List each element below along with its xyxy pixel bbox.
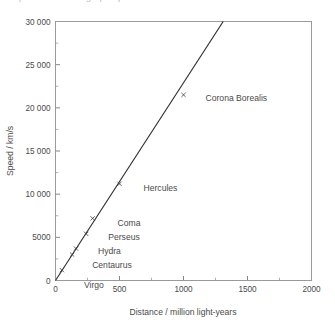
y-tick-label: 15 000: [25, 147, 50, 156]
y-tick-label: 25 000: [25, 61, 50, 70]
y-tick-label-group: 0500010 00015 00020 00025 00030 000: [25, 18, 50, 286]
data-point-label: Virgo: [84, 280, 104, 290]
data-marker: [70, 253, 74, 257]
y-tick-label: 20 000: [25, 104, 50, 113]
major-tick-group: [56, 22, 312, 281]
speed-distance-scatter-chart: 0500100015002000 0500010 00015 00020 000…: [0, 0, 335, 324]
y-axis-title: Speed / km/s: [5, 126, 15, 176]
data-point-label: Corona Borealis: [206, 93, 268, 103]
data-point-label: Perseus: [108, 232, 140, 242]
x-tick-label: 0: [53, 285, 58, 294]
cut-off-caption: speed . distance graph . plot: [14, 0, 314, 2]
data-point-label: Hercules: [144, 183, 178, 193]
data-point-label: Centaurus: [92, 260, 132, 270]
y-tick-label: 0: [46, 277, 51, 286]
data-marker: [91, 216, 95, 220]
y-tick-label: 30 000: [25, 18, 50, 27]
data-point-label-group: VirgoCentaurusHydraPerseusComaHerculesCo…: [84, 93, 267, 290]
x-tick-label: 1000: [174, 285, 193, 294]
minor-tick-group: [56, 43, 280, 280]
data-point-label: Coma: [118, 218, 141, 228]
x-tick-label: 500: [113, 285, 127, 294]
y-tick-label: 10 000: [25, 190, 50, 199]
data-point-label: Hydra: [98, 246, 121, 256]
plot-frame: [56, 22, 312, 281]
data-marker: [74, 246, 78, 250]
y-tick-label: 5000: [32, 233, 51, 242]
data-marker: [181, 93, 185, 97]
hubble-law-figure: speed . distance graph . plot 0500100015…: [0, 0, 335, 324]
x-axis-title: Distance / million light-years: [130, 307, 237, 317]
x-tick-label: 1500: [238, 285, 257, 294]
x-tick-label: 2000: [302, 285, 321, 294]
